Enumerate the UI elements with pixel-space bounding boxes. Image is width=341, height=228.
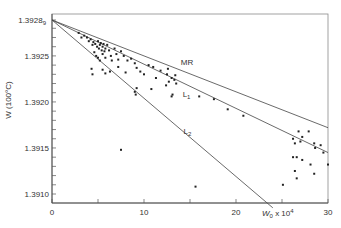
data-point — [102, 53, 104, 55]
data-point — [155, 77, 157, 79]
data-point — [298, 130, 300, 132]
x-tick-label: 10 — [140, 208, 149, 217]
data-point — [97, 57, 99, 59]
data-point — [195, 186, 197, 188]
data-point — [95, 55, 97, 57]
data-point — [320, 144, 322, 146]
data-point — [78, 32, 80, 34]
data-point — [294, 142, 296, 144]
data-point — [91, 68, 93, 70]
x-tick-label: 0 — [50, 208, 55, 217]
data-point — [130, 58, 132, 60]
y-tick-label: 1.3920 — [25, 98, 50, 107]
data-point — [115, 53, 117, 55]
data-point — [143, 73, 145, 75]
data-point — [110, 55, 112, 57]
data-point — [322, 152, 324, 154]
data-point — [292, 156, 294, 158]
data-point — [296, 177, 298, 179]
data-point — [175, 83, 177, 85]
data-point — [134, 91, 136, 93]
data-point — [120, 149, 122, 151]
data-point — [83, 35, 85, 37]
data-point — [152, 66, 154, 68]
data-point — [308, 130, 310, 132]
data-point — [111, 60, 113, 62]
data-point — [106, 44, 108, 46]
data-point — [125, 71, 127, 73]
line-label-l1: L1 — [183, 90, 191, 100]
data-point — [327, 164, 329, 166]
data-point — [150, 88, 152, 90]
data-point — [299, 141, 301, 143]
data-point — [100, 42, 102, 44]
data-point — [114, 48, 116, 50]
data-point — [213, 98, 215, 100]
data-points — [78, 32, 329, 188]
data-point — [120, 50, 122, 52]
data-point — [301, 136, 303, 138]
data-point — [99, 44, 101, 46]
data-point — [99, 60, 101, 62]
data-point — [148, 64, 150, 66]
data-point — [102, 46, 104, 48]
data-point — [96, 46, 98, 48]
data-point — [103, 50, 105, 52]
data-point — [94, 43, 96, 45]
data-point — [167, 68, 169, 70]
data-point — [166, 73, 168, 75]
x-axis-title: W0 x 104 — [262, 208, 294, 219]
data-point — [314, 147, 316, 149]
data-point — [108, 49, 110, 51]
data-point — [80, 36, 82, 38]
data-point — [165, 84, 167, 86]
data-point — [310, 164, 312, 166]
data-point — [104, 48, 106, 50]
data-point — [126, 60, 128, 62]
data-point — [103, 43, 105, 45]
data-point — [294, 170, 296, 172]
data-point — [136, 87, 138, 89]
data-point — [93, 51, 95, 53]
data-point — [139, 71, 141, 73]
data-point — [313, 173, 315, 175]
y-axis-title: W (100°C) — [4, 81, 13, 119]
data-point — [171, 95, 173, 97]
line-l2 — [52, 20, 273, 208]
data-point — [104, 72, 106, 74]
data-point — [198, 95, 200, 97]
data-point — [88, 40, 90, 42]
data-point — [90, 38, 92, 40]
x-tick-label: 20 — [232, 208, 241, 217]
data-point — [123, 55, 125, 57]
data-point — [160, 70, 162, 72]
data-point — [135, 94, 137, 96]
data-point — [101, 49, 103, 51]
regression-lines — [52, 20, 328, 208]
data-point — [292, 138, 294, 140]
data-point — [136, 67, 138, 69]
data-point — [92, 41, 94, 43]
data-point — [109, 71, 111, 73]
data-point — [301, 159, 303, 161]
data-point — [117, 66, 119, 68]
y-tick-label: 1.3910 — [25, 190, 50, 199]
line-label-l2: L2 — [184, 127, 192, 137]
data-point — [242, 115, 244, 117]
data-point — [172, 94, 174, 96]
data-point — [86, 36, 88, 38]
y-tick-label: 1.39289 — [18, 16, 46, 26]
y-tick-label: 1.3915 — [25, 144, 50, 153]
data-point — [102, 69, 104, 71]
data-point — [227, 108, 229, 110]
chart-svg: 1.392891.39251.39201.39151.3910 0102030 … — [0, 0, 341, 228]
data-point — [104, 57, 106, 59]
y-tick-label: 1.3925 — [25, 52, 50, 61]
data-point — [171, 77, 173, 79]
data-point — [282, 184, 284, 186]
x-tick-label: 30 — [324, 208, 333, 217]
data-point — [174, 74, 176, 76]
data-point — [173, 79, 175, 81]
data-point — [98, 48, 100, 50]
data-point — [296, 156, 298, 158]
